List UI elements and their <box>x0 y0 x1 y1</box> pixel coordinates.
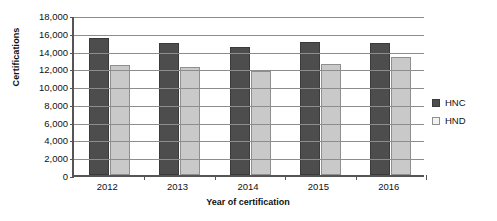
legend-item-hnd[interactable]: HND <box>432 113 494 128</box>
gridline <box>74 53 424 54</box>
hnd-swatch-icon <box>432 117 440 125</box>
legend-label: HND <box>445 115 466 126</box>
y-axis-tickmark <box>70 141 74 142</box>
chart-legend: HNCHND <box>432 95 494 131</box>
x-axis-title: Year of certification <box>72 197 424 207</box>
y-axis-tick-label: 10,000 <box>18 83 68 93</box>
y-axis-tick-label: 6,000 <box>18 119 68 129</box>
x-axis-tick-labels: 20122013201420152016 <box>72 181 424 195</box>
x-axis-tickmark <box>215 175 216 180</box>
bar-hnc-2016 <box>370 43 390 175</box>
x-axis-tick-label-2016: 2016 <box>354 181 424 193</box>
y-axis-tick-label: 12,000 <box>18 65 68 75</box>
y-axis-tick-label: 4,000 <box>18 136 68 146</box>
hnc-swatch-icon <box>432 99 440 107</box>
bar-hnd-2016 <box>391 57 411 175</box>
y-axis-tickmark <box>70 124 74 125</box>
gridline <box>74 17 424 18</box>
y-axis-tick-label: 16,000 <box>18 30 68 40</box>
y-axis-tick-label: 18,000 <box>18 12 68 22</box>
x-axis-tickmark <box>144 175 145 180</box>
y-axis-tickmark <box>70 17 74 18</box>
y-axis-tickmark <box>70 70 74 71</box>
y-axis-tickmark <box>70 35 74 36</box>
gridline <box>74 141 424 142</box>
x-axis-tickmark <box>285 175 286 180</box>
gridline <box>74 159 424 160</box>
y-axis-tick-label: 14,000 <box>18 48 68 58</box>
y-axis-tick-label: 2,000 <box>18 154 68 164</box>
bar-hnc-2013 <box>159 43 179 175</box>
y-axis-tickmark <box>70 53 74 54</box>
gridline <box>74 124 424 125</box>
legend-item-hnc[interactable]: HNC <box>432 95 494 110</box>
bar-chart: Certifications 18,00016,00014,00012,0001… <box>0 0 497 221</box>
bars-layer <box>74 17 424 175</box>
y-axis-tick-label: 0 <box>18 172 68 182</box>
plot-area <box>72 17 424 177</box>
legend-label: HNC <box>445 97 466 108</box>
x-axis-tick-label-2013: 2013 <box>142 181 212 193</box>
gridline <box>74 106 424 107</box>
x-axis-tickmark <box>426 175 427 180</box>
x-axis-tickmark <box>356 175 357 180</box>
x-axis-tick-label-2015: 2015 <box>283 181 353 193</box>
y-axis-tickmark <box>70 106 74 107</box>
bar-hnc-2015 <box>300 42 320 175</box>
gridline <box>74 35 424 36</box>
x-axis-tick-label-2014: 2014 <box>213 181 283 193</box>
y-axis-tickmark <box>70 159 74 160</box>
gridline <box>74 88 424 89</box>
y-axis-tick-labels: 18,00016,00014,00012,00010,0008,0006,000… <box>18 12 68 184</box>
gridline <box>74 70 424 71</box>
y-axis-tick-label: 8,000 <box>18 101 68 111</box>
x-axis-tick-label-2012: 2012 <box>72 181 142 193</box>
bar-hnc-2014 <box>230 47 250 175</box>
y-axis-tickmark <box>70 88 74 89</box>
y-axis-tickmark <box>70 177 74 178</box>
